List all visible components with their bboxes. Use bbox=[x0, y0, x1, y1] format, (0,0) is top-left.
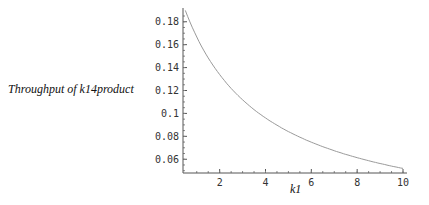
x-tick-label: 6 bbox=[308, 177, 314, 188]
x-tick-label: 10 bbox=[397, 177, 409, 188]
y-tick-label: 0.08 bbox=[155, 131, 179, 142]
y-axis-label: Throughput of k14product bbox=[8, 82, 134, 96]
x-axis-label: k1 bbox=[290, 182, 301, 196]
x-tick-label: 8 bbox=[354, 177, 360, 188]
y-tick-label: 0.1 bbox=[161, 108, 179, 119]
x-tick-label: 2 bbox=[217, 177, 223, 188]
y-tick-label: 0.06 bbox=[155, 154, 179, 165]
y-tick-label: 0.12 bbox=[155, 85, 179, 96]
y-tick-label: 0.14 bbox=[155, 62, 179, 73]
y-axis-ticks: 0.060.080.10.120.140.160.18 bbox=[155, 16, 187, 171]
y-tick-label: 0.16 bbox=[155, 39, 179, 50]
x-tick-label: 4 bbox=[262, 177, 268, 188]
y-tick-label: 0.18 bbox=[155, 16, 179, 27]
line-chart: 0.060.080.10.120.140.160.18 246810 Throu… bbox=[0, 0, 429, 205]
x-axis-ticks: 246810 bbox=[197, 169, 409, 188]
data-series-line bbox=[185, 10, 403, 168]
